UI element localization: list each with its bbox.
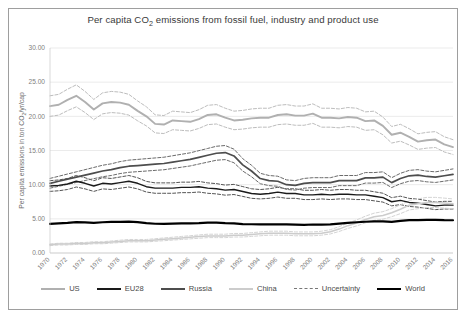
legend-label: EU28 xyxy=(125,284,144,293)
legend-swatch-icon xyxy=(377,288,401,290)
x-tick-label: 1996 xyxy=(263,255,278,270)
x-tick-label: 1992 xyxy=(228,255,243,270)
legend-item-china[interactable]: China xyxy=(229,284,277,293)
x-tick-label: 1988 xyxy=(193,255,208,270)
x-tick-label: 2016 xyxy=(439,255,454,270)
legend-label: China xyxy=(257,284,277,293)
uncertainty-bound-us-lower xyxy=(50,107,453,155)
y-axis-tick-labels: 0.005.0010.0015.0020.0025.0030.00 xyxy=(28,44,45,256)
data-series-lines xyxy=(50,96,453,245)
y-tick-label: 20.00 xyxy=(28,113,45,120)
legend-label: US xyxy=(69,284,80,293)
x-tick-label: 1974 xyxy=(71,255,86,270)
legend-item-eu28[interactable]: EU28 xyxy=(97,284,144,293)
legend-item-world[interactable]: World xyxy=(377,284,425,293)
uncertainty-bound-us-upper xyxy=(50,85,453,140)
x-tick-label: 1990 xyxy=(211,255,226,270)
uncertainty-bound-eu28-lower xyxy=(50,187,453,210)
x-tick-label: 1980 xyxy=(123,255,138,270)
series-line-us xyxy=(50,96,453,147)
chart-figure: Per capita CO2 emissions from fossil fue… xyxy=(8,8,458,310)
legend-swatch-icon xyxy=(294,288,318,289)
legend-item-russia[interactable]: Russia xyxy=(161,284,212,293)
legend-swatch-icon xyxy=(229,288,253,290)
legend-item-us[interactable]: US xyxy=(41,284,80,293)
x-tick-label: 2014 xyxy=(421,255,436,270)
series-line-world xyxy=(50,220,453,225)
y-tick-label: 10.00 xyxy=(28,181,45,188)
x-tick-label: 2002 xyxy=(316,255,331,270)
legend-swatch-icon xyxy=(161,288,185,290)
x-tick-label: 2006 xyxy=(351,255,366,270)
x-tick-label: 1976 xyxy=(88,255,103,270)
x-tick-label: 1994 xyxy=(246,255,261,270)
legend-swatch-icon xyxy=(41,288,65,290)
figure-caption-sliver xyxy=(10,316,450,324)
y-axis-title-text: Per capita emissions in ton CO2/yr/cap xyxy=(18,92,27,209)
x-tick-label: 1978 xyxy=(106,255,121,270)
x-tick-label: 1984 xyxy=(158,255,173,270)
chart-plot-area: 0.005.0010.0015.0020.0025.0030.00 197019… xyxy=(9,9,459,311)
legend-label: World xyxy=(405,284,425,293)
y-tick-label: 30.00 xyxy=(28,44,45,51)
x-tick-label: 1972 xyxy=(53,255,68,270)
x-tick-label: 1982 xyxy=(141,255,156,270)
x-tick-label: 2004 xyxy=(334,255,349,270)
x-axis-tick-labels: 1970197219741976197819801982198419861988… xyxy=(36,255,454,270)
x-tick-label: 1986 xyxy=(176,255,191,270)
y-tick-label: 5.00 xyxy=(32,215,45,222)
y-tick-label: 25.00 xyxy=(28,78,45,85)
legend-swatch-icon xyxy=(97,288,121,290)
x-tick-label: 2010 xyxy=(386,255,401,270)
x-tick-label: 1970 xyxy=(36,255,51,270)
x-tick-label: 2000 xyxy=(299,255,314,270)
y-axis-title: Per capita emissions in ton CO2/yr/cap xyxy=(18,92,27,209)
uncertainty-bound-china-lower xyxy=(50,207,453,245)
x-tick-label: 2008 xyxy=(369,255,384,270)
chart-legend: USEU28RussiaChinaUncertaintyWorld xyxy=(9,284,457,293)
y-tick-label: 15.00 xyxy=(28,147,45,154)
legend-label: Russia xyxy=(189,284,212,293)
series-line-russia xyxy=(50,153,453,186)
uncertainty-bound-china-upper xyxy=(50,197,453,244)
legend-label: Uncertainty xyxy=(322,284,360,293)
legend-item-uncertainty[interactable]: Uncertainty xyxy=(294,284,360,293)
x-tick-label: 1998 xyxy=(281,255,296,270)
x-tick-label: 2012 xyxy=(404,255,419,270)
y-tick-label: 0.00 xyxy=(32,249,45,256)
